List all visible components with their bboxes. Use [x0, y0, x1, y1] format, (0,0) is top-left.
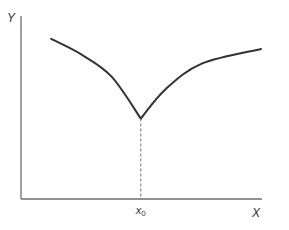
- x-tick-label: x0: [135, 204, 147, 218]
- curve-left-branch: [51, 39, 141, 119]
- chart: Y X x0: [0, 0, 289, 230]
- series-layer: [51, 39, 261, 119]
- curve-right-branch: [141, 49, 261, 119]
- x-tick-layer: x0: [135, 204, 147, 218]
- x-axis-label: X: [251, 206, 261, 220]
- y-axis-label: Y: [7, 11, 16, 25]
- x-tick-subscript: 0: [141, 209, 146, 218]
